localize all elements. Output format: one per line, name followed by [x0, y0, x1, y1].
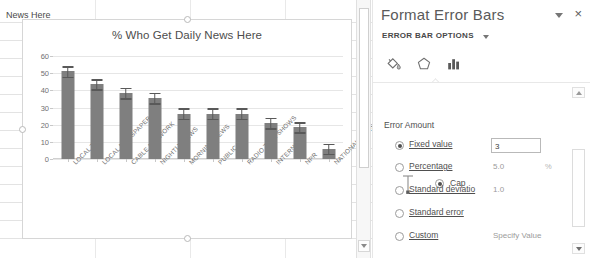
chart-bar-group[interactable]: RADIO TALK SHOWS — [227, 56, 256, 159]
chart-bar-group[interactable]: NATIONAL NEWSPAPERS — [314, 56, 343, 159]
x-tick-mark — [184, 159, 185, 162]
radio-percentage[interactable] — [395, 163, 404, 172]
radio-custom[interactable] — [395, 232, 404, 241]
x-tick-mark — [329, 159, 330, 162]
x-tick-mark — [126, 159, 127, 162]
pane-tab-row — [381, 52, 581, 76]
chart-bar-group[interactable]: MORNING NEWS — [169, 56, 198, 159]
y-tick-label: 20 — [41, 120, 49, 129]
error-bar-cap-top — [149, 93, 160, 95]
chart-bar-group[interactable]: PUBLIC TV — [198, 56, 227, 159]
chart-resize-handle-bottom[interactable] — [184, 235, 191, 242]
pane-title: Format Error Bars — [381, 6, 504, 23]
chart-resize-handle-left[interactable] — [19, 126, 26, 133]
chart-bar[interactable] — [235, 114, 248, 159]
standard-deviation-value[interactable]: 1.0 — [493, 185, 504, 194]
x-tick-mark — [242, 159, 243, 162]
error-bar-stem[interactable] — [183, 108, 185, 118]
error-bar-cap-top — [294, 122, 305, 124]
x-tick-mark — [155, 159, 156, 162]
x-tick-mark — [68, 159, 69, 162]
error-bar-stem[interactable] — [154, 93, 156, 103]
pane-scrollbar-thumb[interactable] — [572, 149, 585, 227]
chart-bar[interactable] — [90, 84, 103, 159]
close-icon[interactable]: × — [574, 7, 582, 21]
chart-bar[interactable] — [148, 98, 161, 159]
label-percentage[interactable]: Percentage — [409, 161, 452, 171]
fixed-value-input-text: 3 — [495, 142, 499, 151]
error-bar-cap-top — [236, 108, 247, 110]
error-amount-heading: Error Amount — [384, 120, 434, 130]
chart-bar-group[interactable]: LOCAL TV — [53, 56, 82, 159]
spreadsheet-vertical-scrollbar[interactable] — [356, 0, 371, 258]
chart-title[interactable]: % Who Get Daily News Here — [23, 29, 351, 41]
y-tick-label: 10 — [41, 137, 49, 146]
chart-resize-handle-top[interactable] — [184, 16, 191, 23]
error-bar-stem[interactable] — [67, 66, 69, 76]
error-bar-cap-bottom — [91, 89, 102, 91]
error-bar-cap-top — [265, 118, 276, 120]
label-percentage-text: Percentage — [409, 161, 452, 171]
error-bar-cap-bottom — [62, 77, 73, 79]
chart-bar[interactable] — [177, 114, 190, 159]
chart-object[interactable]: % Who Get Daily News Here 0102030405060L… — [22, 19, 352, 239]
error-bar-cap-bottom — [265, 128, 276, 130]
pane-subtitle[interactable]: ERROR BAR OPTIONS — [382, 31, 474, 40]
error-bar-stem[interactable] — [270, 118, 272, 128]
scrollbar-thumb[interactable] — [359, 8, 369, 168]
chart-bar-group[interactable]: CABLE NETWORK — [111, 56, 140, 159]
pane-scroll-up-button[interactable] — [572, 87, 585, 98]
label-fixed-value-text: Fixed value — [409, 139, 452, 149]
error-bar-cap-bottom — [120, 98, 131, 100]
radio-fixed-value[interactable] — [395, 141, 404, 150]
label-fixed-value[interactable]: Fixed value — [409, 139, 452, 149]
label-standard-error[interactable]: Standard error — [409, 207, 464, 217]
pane-scroll-down-button[interactable] — [572, 243, 585, 254]
tab-effects[interactable] — [411, 52, 437, 76]
error-bar-stem[interactable] — [125, 88, 127, 98]
percentage-value[interactable]: 5.0 — [493, 162, 504, 171]
chevron-down-icon[interactable] — [483, 35, 489, 39]
error-bar-cap-top — [120, 88, 131, 90]
arrow-down-icon — [361, 244, 367, 248]
error-bar-stem[interactable] — [241, 108, 243, 118]
chart-bar-group[interactable]: NPR — [285, 56, 314, 159]
arrow-down-icon — [576, 247, 582, 251]
specify-value-button[interactable]: Specify Value — [493, 231, 541, 240]
tab-options[interactable] — [441, 52, 467, 76]
pane-body: Cap Error Amount Fixed value 3 Percentag… — [373, 82, 590, 258]
scroll-down-button[interactable] — [358, 240, 370, 252]
percent-symbol: % — [545, 162, 552, 171]
chevron-down-icon[interactable] — [555, 13, 563, 18]
label-custom[interactable]: Custom — [409, 230, 438, 240]
bar-chart-icon — [445, 55, 463, 73]
error-bar-stem[interactable] — [299, 122, 301, 132]
error-bar-stem[interactable] — [96, 79, 98, 89]
chart-plot-area[interactable]: 0102030405060LOCAL TVLOCAL NEWSPAPERCABL… — [53, 56, 343, 159]
radio-standard-error[interactable] — [395, 209, 404, 218]
error-bar-cap-bottom — [178, 119, 189, 121]
x-tick-mark — [97, 159, 98, 162]
radio-standard-deviation[interactable] — [395, 186, 404, 195]
chart-bar[interactable] — [206, 114, 219, 159]
chart-bar[interactable] — [61, 71, 74, 159]
label-standard-deviation[interactable]: Standard deviatio — [409, 184, 475, 194]
tab-fill-line[interactable] — [381, 52, 407, 76]
chart-bar-group[interactable]: NIGHTLY NEWS — [140, 56, 169, 159]
error-bar-stem[interactable] — [328, 144, 330, 154]
fixed-value-input[interactable]: 3 — [491, 138, 541, 153]
chart-bar-group[interactable]: LOCAL NEWSPAPER — [82, 56, 111, 159]
error-bar-stem[interactable] — [212, 108, 214, 118]
error-bar-cap-top — [62, 66, 73, 68]
x-tick-mark — [300, 159, 301, 162]
x-tick-mark — [213, 159, 214, 162]
y-tick-mark — [50, 159, 53, 160]
chart-bar[interactable] — [119, 93, 132, 159]
error-bar-cap-bottom — [149, 103, 160, 105]
label-standard-deviation-text: Standard deviatio — [409, 184, 475, 194]
chart-bar-group[interactable]: INTERNET — [256, 56, 285, 159]
pane-vertical-scrollbar[interactable] — [572, 87, 585, 254]
error-bar-cap-bottom — [294, 132, 305, 134]
error-bar-cap-top — [91, 79, 102, 81]
y-tick-label: 40 — [41, 86, 49, 95]
